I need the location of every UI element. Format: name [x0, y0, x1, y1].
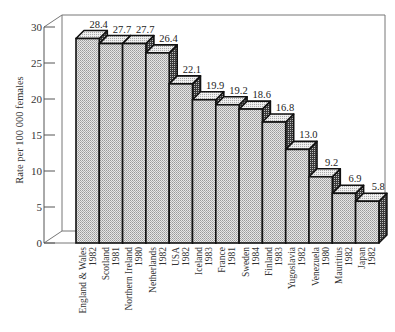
x-category-label: Sweden1984: [241, 247, 261, 277]
x-category-label: USA1982: [171, 247, 191, 266]
y-tick-label: 20: [31, 93, 43, 105]
y-tick-label: 5: [37, 201, 43, 213]
x-category-label: Scotland1981: [101, 247, 121, 281]
category-year: 1982: [367, 247, 377, 266]
category-country: Northern Ireland: [124, 247, 134, 311]
category-country: England & Wales: [78, 247, 88, 314]
category-country: Netherlands: [148, 247, 158, 293]
bar-value-label: 19.2: [229, 85, 247, 96]
category-country: Japan: [357, 247, 367, 269]
x-category-label: Yugoslavia1982: [287, 246, 307, 289]
category-country: Mauritius: [334, 247, 344, 284]
bar-value-label: 26.4: [159, 33, 178, 44]
bar-value-label: 9.2: [325, 157, 338, 168]
x-category-label: France1981: [217, 247, 237, 273]
x-category-label: Iceland1983: [194, 247, 214, 275]
bar-chart: 051015202530 28.427.727.726.422.119.919.…: [0, 0, 395, 332]
category-country: Venezuela: [311, 246, 321, 286]
bar-value-label: 6.9: [348, 173, 361, 184]
bars: 28.427.727.726.422.119.919.218.616.813.0…: [76, 19, 387, 243]
category-year: 1982: [158, 247, 168, 266]
y-tick-label: 25: [31, 57, 43, 69]
bar-value-label: 28.4: [89, 19, 108, 30]
y-tick-label: 30: [31, 21, 43, 33]
y-tick-label: 0: [37, 237, 43, 249]
x-category-label: Venezuela1980: [311, 246, 331, 286]
bar-value-label: 19.9: [206, 80, 224, 91]
category-country: France: [217, 247, 227, 273]
bar-value-label: 22.1: [183, 64, 201, 75]
y-axis: 051015202530: [31, 21, 55, 249]
category-country: Scotland: [101, 247, 111, 280]
bar-value-label: 27.7: [113, 24, 131, 35]
y-axis-title: Rate per 100 000 females: [14, 76, 25, 183]
category-year: 1983: [204, 247, 214, 266]
category-country: Iceland: [194, 247, 204, 275]
bar-value-label: 13.0: [299, 129, 317, 140]
bar-value-label: 27.7: [136, 24, 154, 35]
x-category-label: Netherlands1982: [148, 247, 168, 293]
category-country: Sweden: [241, 247, 251, 277]
category-year: 1984: [251, 247, 261, 266]
x-category-label: Japan1982: [357, 247, 377, 269]
x-category-label: Mauritius1982: [334, 247, 354, 284]
category-country: Yugoslavia: [287, 246, 297, 289]
category-year: 1982: [88, 247, 98, 266]
x-category-label: Finland1983: [264, 247, 284, 276]
x-category-label: England & Wales1982: [78, 247, 98, 314]
category-year: 1982: [297, 247, 307, 266]
bar-value-label: 18.6: [253, 89, 271, 100]
category-country: Finland: [264, 247, 274, 276]
x-category-label: Northern Ireland1980: [124, 247, 144, 311]
category-year: 1982: [181, 247, 191, 266]
y-tick-label: 15: [31, 129, 43, 141]
category-year: 1981: [227, 247, 237, 266]
category-year: 1982: [344, 247, 354, 266]
category-year: 1980: [321, 247, 331, 266]
category-year: 1983: [274, 247, 284, 266]
category-country: USA: [171, 247, 181, 266]
category-year: 1980: [134, 247, 144, 266]
category-year: 1981: [111, 247, 121, 266]
y-tick-label: 10: [31, 165, 43, 177]
x-axis-labels: England & Wales1982Scotland1981Northern …: [78, 246, 378, 313]
bar-value-label: 16.8: [276, 102, 294, 113]
bar-value-label: 5.8: [372, 181, 385, 192]
